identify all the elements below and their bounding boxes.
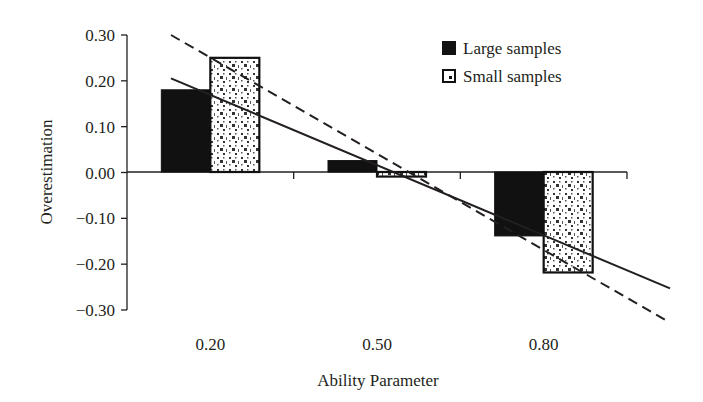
x-tick-label: 0.20: [195, 335, 225, 354]
y-tick-label: −0.30: [76, 301, 115, 320]
y-tick-label: −0.20: [76, 255, 115, 274]
y-axis-title: Overestimation: [37, 119, 56, 224]
legend-label: Small samples: [463, 67, 562, 86]
chart-canvas: 0.300.200.100.00−0.10−0.20−0.30 0.200.50…: [0, 0, 703, 402]
y-tick-label: 0.20: [85, 72, 115, 91]
y-tick-label: 0.10: [85, 118, 115, 137]
legend: Large samplesSmall samples: [442, 39, 562, 86]
bar-large-samples: [495, 172, 544, 236]
y-tick-label: 0.30: [85, 26, 115, 45]
trend-lines: [171, 35, 670, 323]
bar-small-samples: [544, 172, 593, 272]
x-tick-label: 0.80: [529, 335, 559, 354]
legend-label: Large samples: [463, 39, 561, 58]
y-tick-label: −0.10: [76, 209, 115, 228]
trend-line-large-samples: [171, 78, 670, 288]
y-tick-label: 0.00: [85, 164, 115, 183]
y-axis: 0.300.200.100.00−0.10−0.20−0.30: [76, 26, 127, 320]
bar-small-samples: [210, 58, 259, 172]
bar-large-samples: [161, 90, 210, 172]
x-tick-label: 0.50: [362, 335, 392, 354]
x-axis-title: Ability Parameter: [317, 371, 439, 390]
legend-swatch-large: [442, 41, 456, 55]
trend-line-small-samples: [171, 35, 670, 323]
